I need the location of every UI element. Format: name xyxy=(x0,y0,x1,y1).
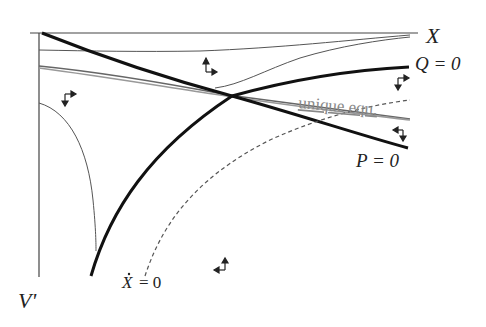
unique-equilibrium-label: unique equ. xyxy=(298,93,379,119)
xdot-dot xyxy=(128,273,130,275)
p-zero-label: P = 0 xyxy=(355,150,400,171)
direction-arrow-right-upper xyxy=(395,75,409,90)
trajectory-top xyxy=(39,35,410,51)
v-axis-label: V' xyxy=(18,288,36,313)
direction-arrow-left xyxy=(62,91,76,106)
trajectory-left xyxy=(39,103,96,251)
phase-diagram: X Q = 0 P = 0 unique equ. X = 0 V' xyxy=(0,0,486,327)
xdot-zero-curve xyxy=(145,100,410,276)
xdot-zero-label: X = 0 xyxy=(121,273,161,292)
xdot-zero-label-rhs: = 0 xyxy=(139,273,161,292)
direction-arrow-bottom xyxy=(214,258,228,273)
q-zero-label-text: Q = 0 xyxy=(415,53,461,74)
xdot-zero-label-x: X xyxy=(121,273,133,292)
q-zero-label: Q = 0 xyxy=(415,53,461,74)
trajectory-upper-right xyxy=(215,37,410,88)
p-zero-label-text: P = 0 xyxy=(355,150,400,171)
x-axis-label: X xyxy=(425,23,441,48)
direction-arrow-right-lower xyxy=(393,127,406,141)
direction-arrow-upper-middle xyxy=(203,58,217,75)
